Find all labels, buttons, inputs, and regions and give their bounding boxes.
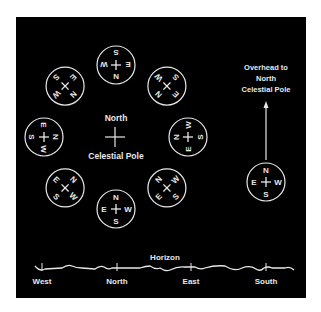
side-compass-dial: NSEW (247, 163, 285, 201)
compass-letter-east: E (39, 122, 48, 128)
compass-letter-north: N (113, 193, 119, 202)
compass-letter-west: W (274, 178, 282, 187)
compass-letter-west: W (124, 205, 132, 214)
compass-letter-east: E (125, 60, 131, 69)
celestial-pole-diagram: North Celestial Pole NSEWNSEWNSEWNSEWNSE… (0, 0, 321, 312)
ring-compass: NSEW (25, 118, 63, 156)
compass-letter-east: E (184, 146, 193, 152)
ring-compass: NSEW (97, 190, 135, 228)
pole-label-celestial-pole: Celestial Pole (88, 151, 144, 161)
horizon-label-east: East (183, 277, 200, 286)
compass-letter-west: W (100, 60, 108, 69)
compass-letter-south: S (113, 48, 119, 57)
compass-letter-south: S (196, 134, 205, 140)
compass-letter-north: N (51, 134, 60, 140)
compass-letter-north: N (113, 72, 119, 81)
overhead-label-line1: Overhead to (244, 63, 288, 72)
compass-letter-east: E (251, 178, 257, 187)
compass-letter-south: S (263, 190, 269, 199)
pole-label-north: North (105, 113, 128, 123)
overhead-compass: NSEW (247, 163, 285, 201)
compass-letter-north: N (172, 134, 181, 140)
compass-letter-south: S (113, 217, 119, 226)
overhead-label-line3: Celestial Pole (242, 85, 291, 94)
compass-letter-east: E (101, 205, 107, 214)
overhead-label-line2: North (256, 74, 276, 83)
compass-letter-west: W (39, 145, 48, 153)
ring-compass: NSEW (97, 46, 135, 84)
horizon-label-north: North (106, 277, 127, 286)
compass-letter-north: N (263, 166, 269, 175)
horizon-label-south: South (255, 277, 278, 286)
compass-letter-west: W (184, 121, 193, 129)
horizon-label-west: West (33, 277, 52, 286)
ring-compass: NSEW (169, 118, 207, 156)
compass-letter-south: S (27, 134, 36, 140)
horizon-title: Horizon (150, 253, 180, 262)
